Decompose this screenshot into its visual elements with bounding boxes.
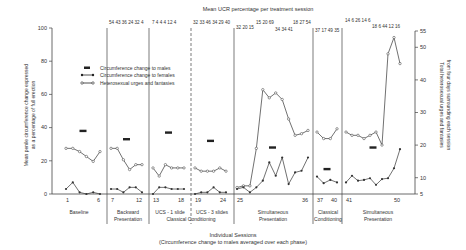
svg-text:20: 20 bbox=[420, 142, 426, 148]
males-mean-bar bbox=[123, 138, 130, 140]
right-y-axis-label: Total heterosexual urges and fantasies bbox=[439, 62, 445, 148]
svg-text:37 17 49 35: 37 17 49 35 bbox=[315, 28, 340, 33]
svg-text:32 33 46 34 29 40: 32 33 46 34 29 40 bbox=[193, 20, 230, 25]
males-mean-bar bbox=[80, 130, 87, 132]
svg-text:36: 36 bbox=[302, 197, 308, 203]
legend-males-icon bbox=[84, 67, 90, 70]
chart: Mean UCR percentage per treatment sessio… bbox=[0, 0, 466, 250]
x-tick-labels: 1671213181924253637404150 bbox=[66, 197, 400, 203]
svg-text:25: 25 bbox=[237, 197, 243, 203]
svg-text:Presentation: Presentation bbox=[259, 216, 287, 222]
left-y-axis: 020406080100 bbox=[38, 25, 52, 197]
svg-text:Backward: Backward bbox=[117, 209, 139, 215]
males-mean-bar bbox=[269, 146, 276, 148]
legend: Circumference change to males Circumfere… bbox=[81, 65, 175, 87]
legend-urges-icon bbox=[81, 82, 94, 84]
svg-text:19: 19 bbox=[195, 197, 201, 203]
svg-text:Presentation: Presentation bbox=[114, 216, 142, 222]
left-y-axis-label-2: as a percentage of full erection bbox=[30, 81, 36, 150]
svg-text:40: 40 bbox=[420, 77, 426, 83]
svg-text:1: 1 bbox=[66, 197, 69, 203]
svg-text:54 43 36 24 32 4: 54 43 36 24 32 4 bbox=[109, 20, 144, 25]
svg-text:Simultaneous: Simultaneous bbox=[363, 209, 394, 215]
left-y-axis-label: Mean penile circumference change express… bbox=[23, 64, 29, 166]
svg-text:5: 5 bbox=[420, 191, 423, 197]
legend-urges-label: Heterosexual urges and fantasies bbox=[100, 80, 175, 86]
svg-text:6: 6 bbox=[97, 197, 100, 203]
svg-text:Baseline: Baseline bbox=[69, 209, 88, 215]
right-y-axis-label-2: from four days surrounding each session bbox=[446, 60, 452, 151]
males-mean-bar bbox=[370, 146, 377, 148]
svg-text:37: 37 bbox=[317, 197, 323, 203]
svg-text:50: 50 bbox=[420, 44, 426, 50]
legend-females-label: Circumference change to females bbox=[100, 72, 175, 78]
svg-text:34 34 41: 34 34 41 bbox=[275, 27, 293, 32]
urges-series bbox=[236, 88, 309, 188]
males-mean-bar bbox=[324, 168, 331, 170]
svg-text:100: 100 bbox=[38, 25, 47, 31]
ucr-values: 54 43 36 24 32 4 7 4 4 4 12 4 32 33 46 3… bbox=[109, 18, 401, 33]
svg-text:12: 12 bbox=[136, 197, 142, 203]
males-mean-bar bbox=[165, 131, 172, 133]
svg-text:Presentation: Presentation bbox=[364, 216, 392, 222]
svg-text:55: 55 bbox=[420, 28, 426, 34]
svg-text:7: 7 bbox=[111, 197, 114, 203]
data-series bbox=[65, 36, 401, 195]
urges-series bbox=[110, 147, 143, 171]
chart-title: Mean UCR percentage per treatment sessio… bbox=[203, 6, 314, 12]
females-series bbox=[65, 181, 101, 195]
females-series bbox=[316, 175, 338, 184]
urges-series bbox=[194, 167, 227, 173]
svg-text:7 4 4 4 12 4: 7 4 4 4 12 4 bbox=[152, 20, 177, 25]
svg-text:Classical Conditioning: Classical Conditioning bbox=[166, 216, 215, 222]
svg-text:Simultaneous: Simultaneous bbox=[258, 209, 289, 215]
svg-text:41: 41 bbox=[346, 197, 352, 203]
svg-text:60: 60 bbox=[41, 91, 47, 97]
svg-text:18 6 44 12 16: 18 6 44 12 16 bbox=[372, 24, 401, 29]
females-series bbox=[345, 148, 401, 186]
svg-text:0: 0 bbox=[44, 191, 47, 197]
svg-text:Classical: Classical bbox=[318, 209, 338, 215]
svg-text:UCS - 3 slides: UCS - 3 slides bbox=[196, 209, 228, 215]
svg-text:15 20 69: 15 20 69 bbox=[256, 20, 274, 25]
urges-series bbox=[65, 147, 101, 162]
urges-series bbox=[345, 36, 401, 146]
legend-females-icon bbox=[81, 74, 94, 76]
males-mean-bar bbox=[207, 140, 214, 142]
svg-text:13: 13 bbox=[153, 197, 159, 203]
svg-text:20: 20 bbox=[41, 158, 47, 164]
phase-dividers bbox=[107, 28, 342, 224]
svg-text:10: 10 bbox=[420, 175, 426, 181]
svg-text:40: 40 bbox=[41, 124, 47, 130]
svg-text:80: 80 bbox=[41, 58, 47, 64]
urges-series bbox=[316, 128, 338, 140]
svg-text:Conditioning: Conditioning bbox=[314, 216, 342, 222]
females-series bbox=[236, 156, 309, 193]
svg-text:14 6 26 14 6: 14 6 26 14 6 bbox=[345, 18, 371, 23]
x-axis-sublabel: (Circumference change to males averaged … bbox=[159, 239, 307, 245]
right-y-axis: 5102030405055 bbox=[415, 28, 426, 197]
legend-males-label: Circumference change to males bbox=[100, 65, 171, 71]
females-series bbox=[110, 186, 143, 193]
svg-text:50: 50 bbox=[394, 197, 400, 203]
svg-text:30: 30 bbox=[420, 109, 426, 115]
svg-text:18: 18 bbox=[178, 197, 184, 203]
svg-text:40: 40 bbox=[331, 197, 337, 203]
urges-series bbox=[152, 163, 185, 177]
svg-text:18 27 54: 18 27 54 bbox=[293, 20, 311, 25]
svg-text:24: 24 bbox=[220, 197, 226, 203]
svg-text:32 20 15: 32 20 15 bbox=[236, 25, 254, 30]
svg-text:UCS - 1 slide: UCS - 1 slide bbox=[155, 209, 185, 215]
phase-labels: Baseline Backward Presentation UCS - 1 s… bbox=[69, 209, 393, 222]
x-axis-label: Individual Sessions bbox=[209, 232, 256, 238]
